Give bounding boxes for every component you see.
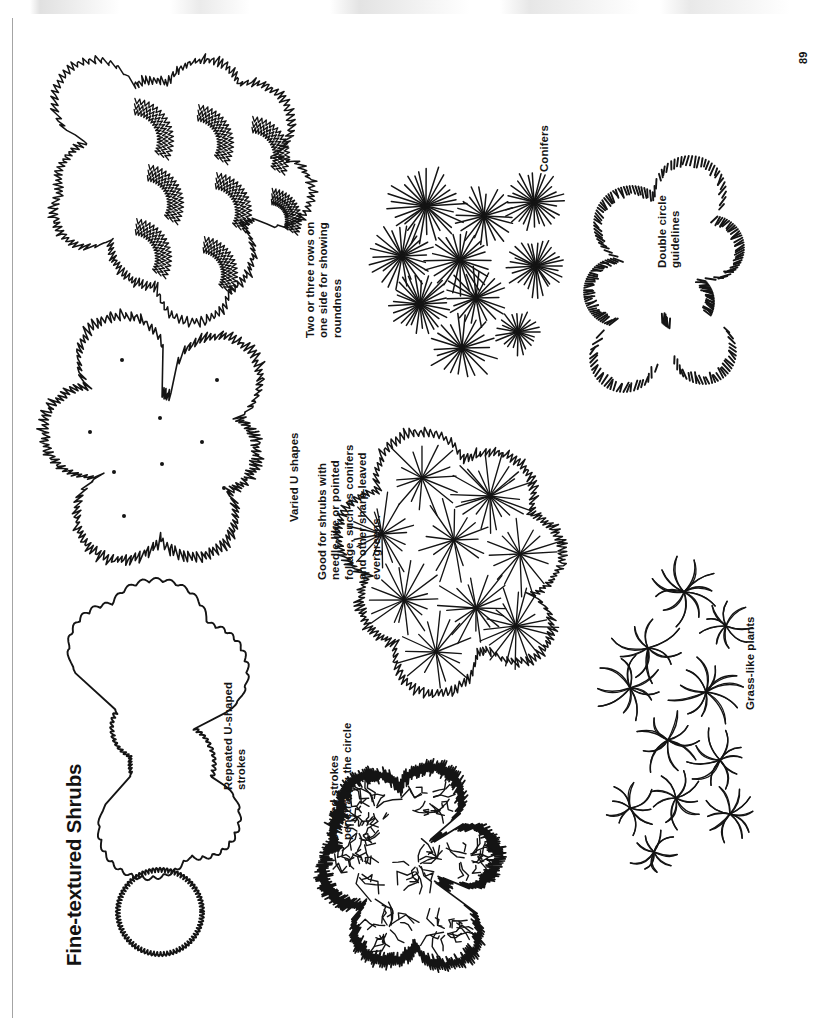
scanned-page: 89 Fine-textured Shrubs Repeated U-shape… (0, 0, 817, 1028)
two-or-three-rows-figure (44, 52, 306, 332)
grass-like-plants-figure (602, 552, 744, 884)
scan-left-margin (0, 0, 13, 1028)
caption-two-or-three-rows: Two or three rows on one side for showin… (304, 222, 344, 338)
double-circle-guidelines-figure (572, 152, 750, 402)
caption-grass-like-plants: Grass-like plants (744, 617, 757, 711)
repeated-u-shaped-strokes-figure (48, 578, 263, 960)
conifers-figure (368, 156, 568, 378)
jagged-strokes-figure (318, 760, 508, 982)
scan-edge-artifact (0, 0, 817, 14)
caption-varied-u-shapes: Varied U shapes (288, 432, 301, 522)
varied-u-shapes-figure (42, 302, 270, 558)
page-number: 89 (797, 52, 810, 64)
needle-foliage-figure (330, 430, 560, 698)
